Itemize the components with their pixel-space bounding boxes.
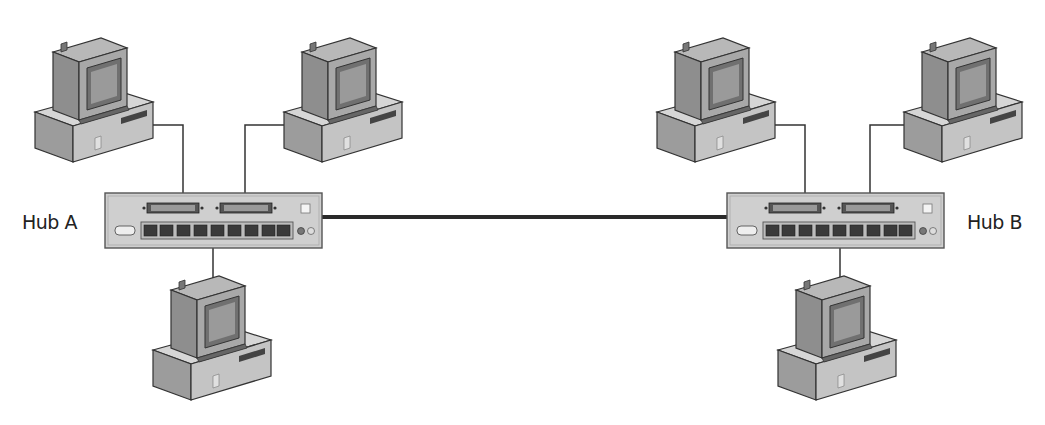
- network-diagram: Hub A Hub B: [0, 0, 1045, 425]
- computer-icon: [657, 38, 775, 162]
- computer-icon: [284, 38, 402, 162]
- hub-b-label: Hub B: [967, 211, 1022, 233]
- hub-a-label: Hub A: [22, 211, 77, 233]
- computer-icon: [778, 276, 896, 400]
- hub-a-device: [105, 193, 322, 248]
- hub-b-device: [727, 193, 944, 248]
- computer-icon: [153, 276, 271, 400]
- computer-icon: [904, 38, 1022, 162]
- diagram-svg: [0, 0, 1045, 425]
- computer-icon: [35, 38, 153, 162]
